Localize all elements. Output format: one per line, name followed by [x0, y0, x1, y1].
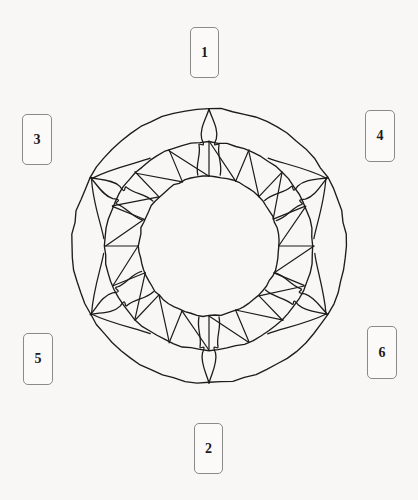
sawtooth-apex-14: [247, 151, 248, 188]
callout-6[interactable]: 6: [367, 326, 397, 379]
callout-1-label: 1: [201, 46, 208, 60]
sawtooth-radial-9: [236, 310, 249, 342]
sawtooth-apex-1: [136, 173, 170, 187]
page-canvas: 134562: [0, 0, 418, 500]
sawtooth-apex-13: [267, 172, 282, 207]
callout-4[interactable]: 4: [365, 110, 395, 162]
sawtooth-diagonal-15: [209, 141, 236, 181]
callout-3-label: 3: [34, 133, 41, 147]
sawtooth-apex-2: [112, 206, 150, 207]
sawtooth-diagonal-11: [274, 246, 314, 273]
sawtooth-apex-8: [223, 315, 249, 342]
sawtooth-apex-5: [135, 285, 151, 320]
sawtooth-diagonal-12: [279, 206, 306, 246]
sawtooth-diagonal-8: [209, 316, 249, 342]
mandala-group: [72, 108, 347, 383]
callout-1[interactable]: 1: [190, 27, 219, 78]
sawtooth-diagonal-3: [106, 219, 145, 246]
callout-2[interactable]: 2: [194, 423, 223, 474]
sawtooth-radial-6: [135, 295, 159, 320]
sawtooth-apex-6: [169, 304, 170, 343]
sawtooth-diagonal-9: [236, 310, 284, 320]
sawtooth-radial-10: [259, 296, 282, 320]
sawtooth-apex-9: [248, 305, 283, 321]
sawtooth-diagonal-5: [135, 273, 145, 320]
callout-5-label: 5: [35, 352, 42, 366]
sawtooth-diagonal-13: [273, 172, 282, 219]
flame-ray-5-left: [266, 290, 328, 314]
outer-wing-3-a: [315, 253, 326, 313]
callout-2-label: 2: [205, 442, 212, 456]
callout-5[interactable]: 5: [23, 333, 53, 385]
sawtooth-apex-10: [268, 284, 305, 286]
sawtooth-radial-15: [236, 150, 249, 181]
callout-6-label: 6: [379, 346, 386, 360]
sawtooth-radial-3: [112, 206, 144, 219]
outer-wing-4-a: [268, 158, 326, 178]
sawtooth-radial-7: [169, 311, 182, 343]
callout-4-label: 4: [377, 129, 384, 143]
sawtooth-diagonal-6: [159, 295, 169, 342]
callout-3[interactable]: 3: [22, 114, 52, 165]
outer-wing-2-a: [91, 314, 150, 334]
